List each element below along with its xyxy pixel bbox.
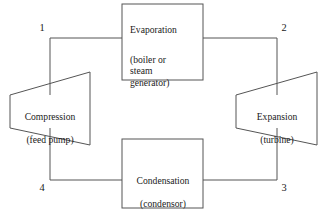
- rankine-cycle-diagram: Evaporation (boiler or steam generator) …: [0, 0, 327, 216]
- condensation-subtitle: (condensor): [124, 198, 202, 210]
- condensation-title: Condensation: [124, 175, 202, 187]
- state-point-3: 3: [278, 182, 290, 193]
- state-point-1: 1: [36, 22, 48, 33]
- expansion-label: Expansion (turbine): [237, 99, 317, 157]
- compression-title: Compression: [10, 111, 90, 123]
- pipe-state1-to-compression: [50, 38, 122, 95]
- condensation-label: Condensation (condensor): [124, 163, 202, 216]
- compression-subtitle: (feed pump): [10, 134, 90, 146]
- state-point-4: 4: [36, 182, 48, 193]
- expansion-title: Expansion: [237, 111, 317, 123]
- state-point-2: 2: [278, 22, 290, 33]
- expansion-subtitle: (turbine): [237, 134, 317, 146]
- evaporation-title: Evaporation: [130, 24, 200, 36]
- evaporation-label: Evaporation (boiler or steam generator): [130, 12, 200, 100]
- evaporation-subtitle: (boiler or steam generator): [130, 54, 200, 89]
- compression-label: Compression (feed pump): [10, 99, 90, 157]
